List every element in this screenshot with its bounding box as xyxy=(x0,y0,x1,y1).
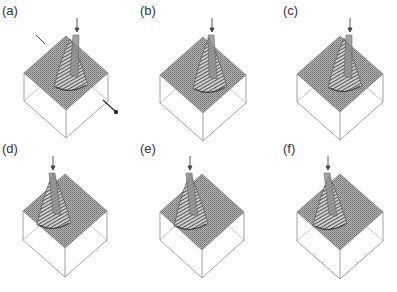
panel-b xyxy=(160,18,246,141)
figure-canvas xyxy=(0,0,397,292)
panel-a xyxy=(24,18,118,138)
down-arrow-icon xyxy=(348,18,352,32)
panel-d xyxy=(23,156,107,277)
down-arrow-icon xyxy=(210,18,214,32)
panel-f xyxy=(297,156,383,279)
down-arrow-icon xyxy=(326,156,330,170)
surface-ridge xyxy=(208,35,217,79)
diagonal-arrow-icon xyxy=(36,35,45,44)
panel-e xyxy=(160,156,244,278)
down-arrow-icon xyxy=(75,18,79,32)
exit-arrow-icon xyxy=(103,100,118,114)
panel-c xyxy=(297,18,383,140)
down-arrow-icon xyxy=(51,156,55,170)
down-arrow-icon xyxy=(188,156,192,170)
